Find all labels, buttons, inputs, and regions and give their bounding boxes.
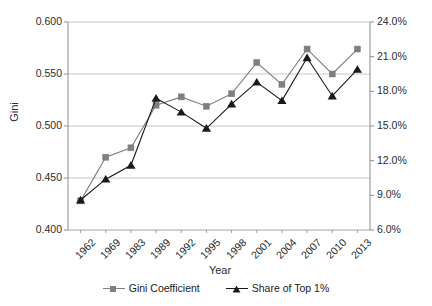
legend-label-gini: Gini Coefficient <box>129 282 200 294</box>
chart-legend: Gini Coefficient Share of Top 1% <box>0 282 432 294</box>
legend-item-share: Share of Top 1% <box>226 282 329 294</box>
plot-area <box>0 0 432 306</box>
chart-container: Gini Year 0.4000.4500.5000.5500.600 6.0%… <box>0 0 432 306</box>
legend-item-gini: Gini Coefficient <box>103 282 200 294</box>
legend-label-share: Share of Top 1% <box>252 282 329 294</box>
legend-key-share-triangle-icon <box>226 283 248 293</box>
legend-key-gini-square-icon <box>103 283 125 293</box>
